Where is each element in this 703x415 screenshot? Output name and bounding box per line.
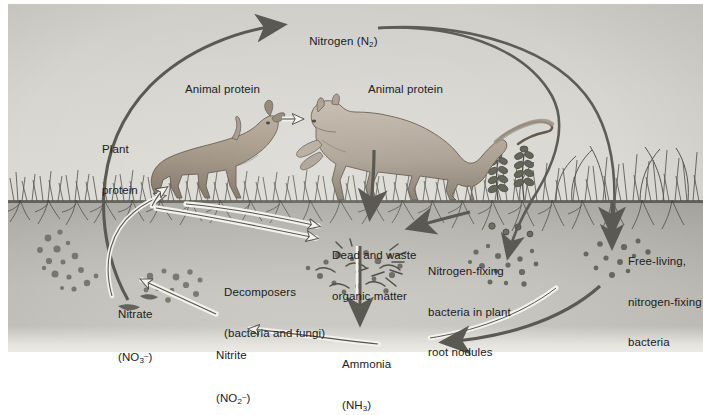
label-nitrogen-gas-text: Nitrogen (N xyxy=(309,35,369,47)
label-ammonia-name: Ammonia xyxy=(342,358,391,372)
label-nitrite-name: Nitrite xyxy=(216,349,250,363)
label-free-living-line2: nitrogen-fixing xyxy=(628,296,702,310)
label-dead-waste: Dead and waste organic matter xyxy=(332,222,417,330)
label-plant-protein-line2: protein xyxy=(102,184,138,198)
label-free-living-line3: bacteria xyxy=(628,336,702,350)
label-nitrite: Nitrite (NO2–) xyxy=(216,322,250,415)
label-dead-waste-line2: organic matter xyxy=(332,290,417,304)
label-nitrate: Nitrate (NO3–) xyxy=(118,281,153,394)
label-nitrogen-gas: Nitrogen (N2) xyxy=(296,21,378,65)
label-free-living-line1: Free-living, xyxy=(628,255,702,269)
label-nodule-bacteria-line3: root nodules xyxy=(428,346,511,360)
label-ammonia: Ammonia (NH3) xyxy=(342,331,391,415)
label-nitrite-formula: (NO2–) xyxy=(216,390,250,409)
label-nitrate-name: Nitrate xyxy=(118,308,153,322)
label-plant-protein: Plant protein xyxy=(102,116,138,224)
label-nodule-bacteria-line1: Nitrogen-fixing xyxy=(428,265,511,279)
label-animal-protein-deer: Animal protein xyxy=(185,83,260,97)
label-decomposers-line1: Decomposers xyxy=(224,286,325,300)
label-free-living-bacteria: Free-living, nitrogen-fixing bacteria xyxy=(628,228,702,377)
label-ammonia-post: ) xyxy=(367,399,371,411)
label-nitrite-post: ) xyxy=(247,392,251,404)
label-nodule-bacteria-line2: bacteria in plant xyxy=(428,306,511,320)
label-nitrate-post: ) xyxy=(149,351,153,363)
label-nitrogen-gas-close: ) xyxy=(374,35,378,47)
label-animal-protein-cougar: Animal protein xyxy=(368,83,443,97)
label-nitrite-pre: (NO xyxy=(216,392,237,404)
label-nitrate-pre: (NO xyxy=(118,351,139,363)
label-ammonia-formula: (NH3) xyxy=(342,399,391,415)
label-plant-protein-line1: Plant xyxy=(102,143,138,157)
label-dead-waste-line1: Dead and waste xyxy=(332,249,417,263)
label-nodule-bacteria: Nitrogen-fixing bacteria in plant root n… xyxy=(428,238,511,387)
label-nitrate-formula: (NO3–) xyxy=(118,349,153,368)
label-ammonia-pre: (NH xyxy=(342,399,363,411)
